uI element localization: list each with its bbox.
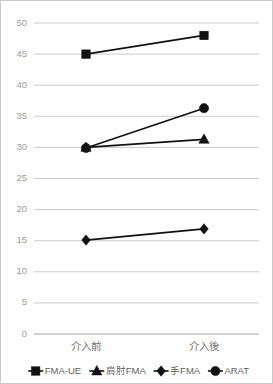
y-tick-label-0: 0 xyxy=(22,328,27,339)
plot-area: 50454035302520151050 介入前介入後 FMA-UE肩肘FMA手… xyxy=(1,1,273,384)
y-tick-label-5: 5 xyxy=(22,296,27,307)
y-axis-tick-labels: 50454035302520151050 xyxy=(16,17,27,339)
y-tick-label-15: 15 xyxy=(16,234,27,245)
legend-item-手FMA[interactable]: 手FMA xyxy=(154,365,201,377)
series-group xyxy=(81,31,209,245)
series-手FMA xyxy=(82,224,209,246)
y-tick-label-30: 30 xyxy=(16,141,27,152)
data-point-手FMA-介入前 xyxy=(82,235,91,245)
y-tick-label-10: 10 xyxy=(16,265,27,276)
legend-item-ARAT[interactable]: ARAT xyxy=(208,365,249,376)
legend-label-FMA-UE: FMA-UE xyxy=(45,365,81,376)
legend-label-手FMA: 手FMA xyxy=(170,365,201,376)
diamond-marker-icon xyxy=(157,366,166,376)
series-line-肩肘FMA xyxy=(86,139,204,147)
data-point-ARAT-介入後 xyxy=(199,104,208,113)
y-tick-label-40: 40 xyxy=(16,79,27,90)
data-point-手FMA-介入後 xyxy=(200,224,209,234)
y-tick-label-45: 45 xyxy=(16,48,27,59)
y-tick-label-20: 20 xyxy=(16,203,27,214)
gridlines-group xyxy=(34,23,259,334)
y-tick-label-25: 25 xyxy=(16,172,27,183)
legend-label-肩肘FMA: 肩肘FMA xyxy=(106,365,147,376)
chart-legend: FMA-UE肩肘FMA手FMAARAT xyxy=(28,365,249,377)
series-line-FMA-UE xyxy=(86,35,204,54)
chart-frame: 50454035302520151050 介入前介入後 FMA-UE肩肘FMA手… xyxy=(0,0,273,384)
x-category-label-0: 介入前 xyxy=(71,340,101,352)
series-line-ARAT xyxy=(86,108,204,148)
legend-item-肩肘FMA[interactable]: 肩肘FMA xyxy=(89,365,146,376)
data-point-FMA-UE-介入後 xyxy=(200,31,208,39)
series-line-手FMA xyxy=(86,229,204,240)
data-point-FMA-UE-介入前 xyxy=(82,50,90,58)
x-axis-category-labels: 介入前介入後 xyxy=(71,340,220,352)
y-tick-label-50: 50 xyxy=(16,17,27,28)
y-tick-label-35: 35 xyxy=(16,110,27,121)
line-chart: 50454035302520151050 介入前介入後 FMA-UE肩肘FMA手… xyxy=(1,1,273,384)
data-point-肩肘FMA-介入後 xyxy=(199,134,209,143)
legend-label-ARAT: ARAT xyxy=(224,365,249,376)
x-category-label-1: 介入後 xyxy=(189,340,220,352)
data-point-ARAT-介入前 xyxy=(81,143,90,152)
circle-marker-icon xyxy=(211,366,220,375)
series-ARAT xyxy=(81,104,208,153)
legend-item-FMA-UE[interactable]: FMA-UE xyxy=(28,365,81,376)
square-marker-icon xyxy=(32,367,40,375)
